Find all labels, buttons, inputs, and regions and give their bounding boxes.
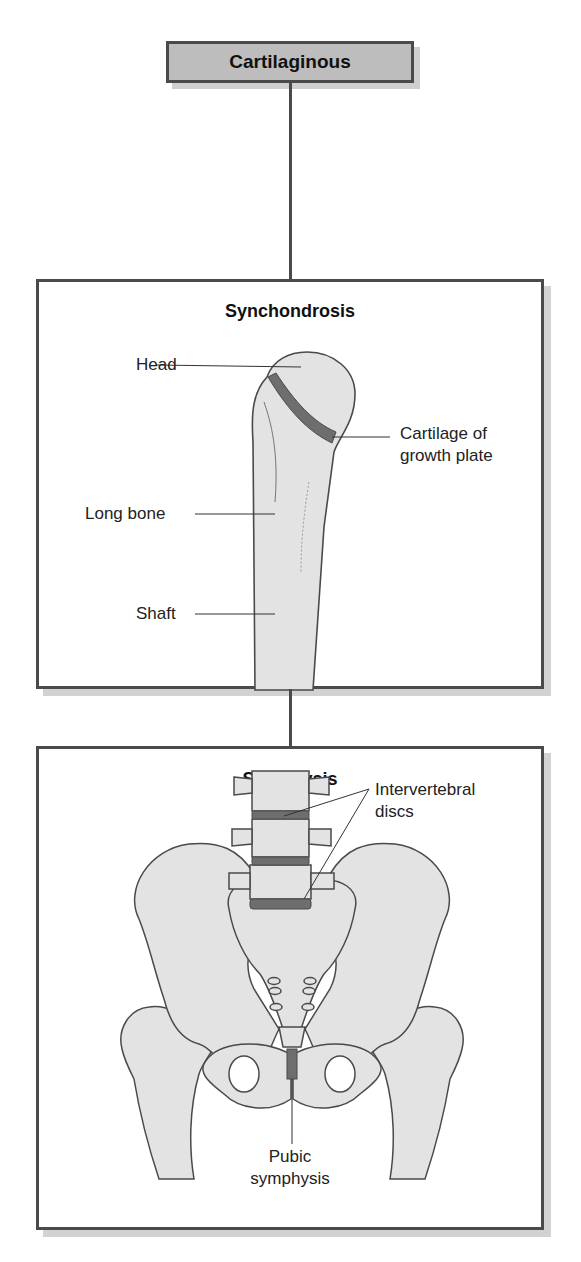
- label-intervertebral-line1: Intervertebral: [375, 779, 475, 800]
- header-title: Cartilaginous: [229, 51, 350, 73]
- intervertebral-disc-1: [252, 811, 309, 819]
- left-obturator-foramen: [229, 1056, 259, 1092]
- label-cartilage-line2: growth plate: [400, 445, 493, 466]
- label-intervertebral-line2: discs: [375, 801, 414, 822]
- vertebra-2: [252, 819, 309, 857]
- connector-line-top: [289, 83, 292, 280]
- label-shaft: Shaft: [136, 603, 176, 624]
- intervertebral-disc-3: [250, 899, 311, 909]
- label-cartilage-line1: Cartilage of: [400, 423, 487, 444]
- pubic-symphysis-cartilage: [287, 1049, 297, 1079]
- long-bone-illustration: [39, 282, 547, 692]
- coccyx: [279, 1027, 305, 1047]
- connector-line-middle: [289, 689, 292, 747]
- long-bone-shape: [252, 352, 355, 690]
- right-obturator-foramen: [325, 1056, 355, 1092]
- vertebra-3: [250, 865, 311, 899]
- intervertebral-disc-2: [252, 857, 309, 865]
- label-head: Head: [136, 354, 177, 375]
- vertebra-1: [252, 771, 309, 811]
- header-box: Cartilaginous: [166, 41, 414, 83]
- label-long-bone: Long bone: [85, 503, 165, 524]
- label-pubic-line2: symphysis: [39, 1168, 541, 1189]
- symphysis-panel: Symphysis: [36, 746, 544, 1230]
- label-pubic-line1: Pubic: [39, 1146, 541, 1167]
- synchondrosis-panel: Synchondrosis Head Cartilage of growth p…: [36, 279, 544, 689]
